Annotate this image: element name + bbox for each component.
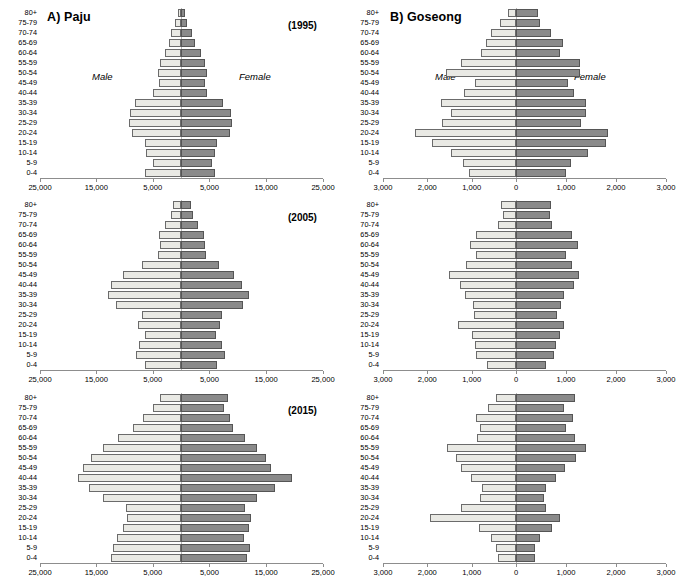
bar-row (383, 454, 666, 462)
age-label: 35-39 (339, 484, 379, 491)
bar-row (383, 514, 666, 522)
plot-area-goseong-2: 3,0002,0001,00001,0002,0003,000 (383, 393, 666, 563)
bar-row (383, 534, 666, 542)
age-label: 75-79 (339, 404, 379, 411)
bar-male (498, 554, 516, 562)
bar-female (516, 464, 565, 472)
bar-row (383, 424, 666, 432)
bar-row (383, 444, 666, 452)
bar-female (516, 434, 575, 442)
bar-row (383, 414, 666, 422)
x-tick-label: 3,000 (656, 568, 675, 577)
bar-row (383, 394, 666, 402)
bar-male (479, 524, 516, 532)
bar-row (383, 504, 666, 512)
bar-female (516, 444, 586, 452)
bar-male (477, 434, 516, 442)
age-label: 30-34 (339, 494, 379, 501)
bar-male (430, 514, 516, 522)
bar-male (480, 494, 516, 502)
bar-male (482, 484, 516, 492)
bar-row (383, 434, 666, 442)
bar-male (461, 504, 516, 512)
x-tick-label: 1,000 (556, 568, 575, 577)
age-label: 50-54 (339, 454, 379, 461)
age-axis-goseong-2: 0-45-910-1415-1920-2425-2930-3435-3940-4… (339, 393, 379, 563)
bar-female (516, 424, 566, 432)
bar-male (461, 464, 516, 472)
bar-male (480, 424, 516, 432)
bar-male (491, 534, 516, 542)
x-tick (472, 564, 473, 567)
x-tick (516, 564, 517, 567)
bar-female (516, 414, 573, 422)
bar-female (516, 484, 546, 492)
bar-row (383, 544, 666, 552)
bar-female (516, 544, 535, 552)
age-label: 10-14 (339, 534, 379, 541)
age-label: 40-44 (339, 474, 379, 481)
age-label: 70-74 (339, 414, 379, 421)
bar-male (456, 454, 516, 462)
x-axis-line (383, 563, 666, 564)
bar-row (383, 464, 666, 472)
bar-male (496, 394, 516, 402)
age-label: 45-49 (339, 464, 379, 471)
bar-female (516, 554, 535, 562)
age-label: 80+ (339, 394, 379, 401)
bar-female (516, 474, 556, 482)
x-tick (616, 564, 617, 567)
age-label: 15-19 (339, 524, 379, 531)
bar-female (516, 504, 546, 512)
x-tick (383, 564, 384, 567)
x-tick (427, 564, 428, 567)
x-tick-label: 1,000 (462, 568, 481, 577)
x-tick-label: 2,000 (418, 568, 437, 577)
bar-female (516, 404, 564, 412)
bar-male (496, 544, 516, 552)
x-tick (566, 564, 567, 567)
bar-female (516, 534, 540, 542)
bar-row (383, 484, 666, 492)
age-label: 0-4 (339, 554, 379, 561)
bar-male (476, 414, 516, 422)
bar-row (383, 474, 666, 482)
bar-female (516, 514, 560, 522)
age-label: 65-69 (339, 424, 379, 431)
bar-male (447, 444, 516, 452)
age-label: 60-64 (339, 434, 379, 441)
age-label: 25-29 (339, 504, 379, 511)
x-tick-label: 3,000 (373, 568, 392, 577)
bar-female (516, 394, 575, 402)
bar-female (516, 494, 544, 502)
age-label: 55-59 (339, 444, 379, 451)
x-tick (666, 564, 667, 567)
bar-row (383, 524, 666, 532)
bar-male (471, 474, 516, 482)
bar-male (488, 404, 516, 412)
x-tick-label: 0 (514, 568, 518, 577)
age-label: 20-24 (339, 514, 379, 521)
bar-row (383, 494, 666, 502)
x-tick-label: 2,000 (606, 568, 625, 577)
bar-female (516, 454, 576, 462)
age-label: 5-9 (339, 544, 379, 551)
bar-row (383, 404, 666, 412)
bar-female (516, 524, 552, 532)
bar-row (383, 554, 666, 562)
